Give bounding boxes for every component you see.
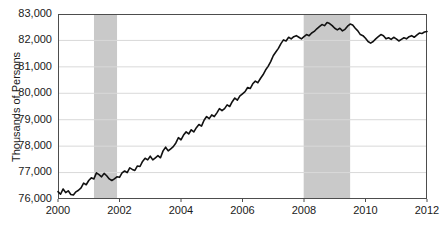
y-tick-label-77000: 77,000 bbox=[18, 165, 52, 177]
y-tick-label-81000: 81,000 bbox=[18, 60, 52, 72]
chart-container: 76,00077,00078,00079,00080,00081,00082,0… bbox=[0, 0, 444, 234]
y-tick-label-83000: 83,000 bbox=[18, 7, 52, 19]
recession-2008-band bbox=[304, 14, 350, 199]
y-tick-label-79000: 79,000 bbox=[18, 113, 52, 125]
employment-line-chart: 76,00077,00078,00079,00080,00081,00082,0… bbox=[0, 0, 444, 234]
x-tick-label-2012: 2012 bbox=[415, 204, 439, 216]
x-tick-label-2002: 2002 bbox=[107, 204, 131, 216]
y-tick-label-76000: 76,000 bbox=[18, 192, 52, 204]
x-tick-label-2000: 2000 bbox=[46, 204, 70, 216]
x-tick-label-2004: 2004 bbox=[169, 204, 193, 216]
y-axis-title: Thousands of Persons bbox=[10, 51, 22, 162]
x-tick-label-2006: 2006 bbox=[230, 204, 254, 216]
y-tick-label-82000: 82,000 bbox=[18, 33, 52, 45]
y-tick-label-80000: 80,000 bbox=[18, 86, 52, 98]
x-tick-label-2008: 2008 bbox=[292, 204, 316, 216]
y-tick-label-78000: 78,000 bbox=[18, 139, 52, 151]
x-tick-label-2010: 2010 bbox=[353, 204, 377, 216]
recession-2001-band bbox=[94, 14, 117, 199]
